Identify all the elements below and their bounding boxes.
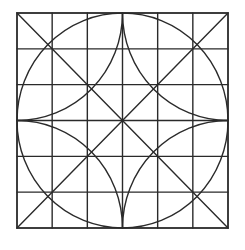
geometric-construction-figure — [0, 0, 245, 250]
